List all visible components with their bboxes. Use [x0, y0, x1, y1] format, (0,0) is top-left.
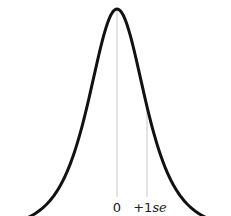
tick-label-plus-one: +1 — [133, 200, 152, 215]
distribution-chart: 0 +1se — [0, 0, 231, 216]
tick-label-se: se — [152, 200, 167, 215]
tick-label-plus-one-se: +1se — [133, 200, 167, 215]
tick-label-zero: 0 — [113, 200, 121, 215]
